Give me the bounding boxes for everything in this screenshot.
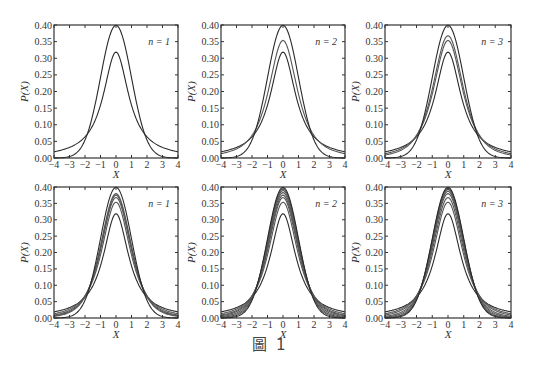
panel-label: n = 3 bbox=[481, 198, 503, 209]
y-tick-label: 0.10 bbox=[35, 119, 53, 130]
x-tick-label: 3 bbox=[493, 159, 498, 170]
x-tick-label: −2 bbox=[80, 159, 91, 170]
x-tick-label: −1 bbox=[427, 319, 438, 330]
y-tick-label: 0.00 bbox=[202, 313, 220, 324]
density-curve bbox=[385, 214, 511, 312]
chart-panel-bottom-middle: −4−3−2−101234X0.000.050.100.150.200.250.… bbox=[185, 182, 348, 341]
y-tick-label: 0.40 bbox=[202, 20, 220, 31]
x-tick-label: 4 bbox=[509, 159, 514, 170]
x-axis-label: X bbox=[444, 168, 453, 180]
y-tick-label: 0.00 bbox=[366, 153, 384, 164]
y-tick-label: 0.20 bbox=[202, 86, 220, 97]
y-tick-label: 0.10 bbox=[202, 280, 220, 291]
density-curve bbox=[221, 202, 345, 313]
density-curve bbox=[54, 202, 178, 313]
density-curve bbox=[54, 194, 178, 317]
y-axis-label: P(X) bbox=[349, 81, 362, 103]
y-tick-label: 0.35 bbox=[366, 198, 384, 209]
x-tick-label: 1 bbox=[296, 159, 301, 170]
x-tick-label: 4 bbox=[176, 319, 181, 330]
y-tick-label: 0.20 bbox=[366, 86, 384, 97]
density-curve bbox=[221, 52, 345, 152]
x-tick-label: 1 bbox=[129, 159, 134, 170]
x-tick-label: −1 bbox=[95, 319, 106, 330]
x-tick-label: 1 bbox=[461, 319, 466, 330]
y-tick-label: 0.05 bbox=[366, 296, 384, 307]
y-tick-label: 0.25 bbox=[35, 231, 53, 242]
y-tick-label: 0.05 bbox=[35, 136, 53, 147]
y-tick-label: 0.35 bbox=[35, 36, 53, 47]
y-tick-label: 0.20 bbox=[366, 247, 384, 258]
chart-panel-bottom-left: −4−3−2−101234X0.000.050.100.150.200.250.… bbox=[18, 182, 181, 341]
y-tick-label: 0.30 bbox=[366, 53, 384, 64]
density-curve bbox=[385, 52, 511, 152]
x-tick-label: 2 bbox=[145, 159, 150, 170]
y-tick-label: 0.25 bbox=[202, 231, 220, 242]
density-curve bbox=[385, 191, 511, 317]
chart-panel-top-middle: −4−3−2−101234X0.000.050.100.150.200.250.… bbox=[185, 20, 348, 181]
panel-label: n = 1 bbox=[148, 36, 170, 47]
x-tick-label: −3 bbox=[64, 319, 75, 330]
y-tick-label: 0.40 bbox=[202, 182, 220, 193]
x-tick-label: 1 bbox=[461, 159, 466, 170]
density-curve bbox=[54, 214, 178, 312]
figure: −4−3−2−101234X0.000.050.100.150.200.250.… bbox=[0, 0, 540, 369]
x-tick-label: 4 bbox=[343, 159, 348, 170]
x-tick-label: 1 bbox=[129, 319, 134, 330]
x-tick-label: −1 bbox=[427, 159, 438, 170]
x-tick-label: 2 bbox=[477, 319, 482, 330]
y-tick-label: 0.30 bbox=[35, 53, 53, 64]
x-tick-label: −1 bbox=[95, 159, 106, 170]
y-tick-label: 0.05 bbox=[202, 296, 220, 307]
x-tick-label: 3 bbox=[493, 319, 498, 330]
x-tick-label: 2 bbox=[145, 319, 150, 330]
y-tick-label: 0.00 bbox=[366, 313, 384, 324]
y-axis-label: P(X) bbox=[185, 242, 198, 264]
panel-label: n = 3 bbox=[481, 36, 503, 47]
y-tick-label: 0.20 bbox=[35, 86, 53, 97]
density-curve bbox=[221, 40, 345, 153]
x-tick-label: −2 bbox=[80, 319, 91, 330]
x-tick-label: −2 bbox=[411, 319, 422, 330]
density-curve bbox=[221, 198, 345, 315]
y-tick-label: 0.05 bbox=[202, 136, 220, 147]
panel-label: n = 1 bbox=[148, 198, 170, 209]
y-axis-label: P(X) bbox=[349, 242, 362, 264]
plot-area: −4−3−2−101234X0.000.050.100.150.200.250.… bbox=[0, 0, 540, 369]
chart-panel-top-right: −4−3−2−101234X0.000.050.100.150.200.250.… bbox=[349, 20, 514, 181]
x-tick-label: 4 bbox=[509, 319, 514, 330]
density-curve bbox=[385, 194, 511, 317]
density-curve bbox=[385, 198, 511, 315]
y-tick-label: 0.25 bbox=[366, 231, 384, 242]
y-tick-label: 0.15 bbox=[35, 263, 53, 274]
x-tick-label: 2 bbox=[477, 159, 482, 170]
y-tick-label: 0.25 bbox=[366, 69, 384, 80]
y-tick-label: 0.00 bbox=[35, 313, 53, 324]
chart-panel-top-left: −4−3−2−101234X0.000.050.100.150.200.250.… bbox=[18, 20, 181, 181]
y-tick-label: 0.00 bbox=[202, 153, 220, 164]
density-curve bbox=[385, 202, 511, 313]
y-tick-label: 0.35 bbox=[35, 198, 53, 209]
y-tick-label: 0.30 bbox=[202, 214, 220, 225]
x-tick-label: −2 bbox=[247, 319, 258, 330]
panel-label: n = 2 bbox=[315, 36, 337, 47]
density-curve bbox=[385, 40, 511, 153]
x-tick-label: −1 bbox=[262, 319, 273, 330]
y-tick-label: 0.00 bbox=[35, 153, 53, 164]
density-curve bbox=[54, 52, 178, 152]
panel-label: n = 2 bbox=[315, 198, 337, 209]
x-axis-label: X bbox=[112, 168, 121, 180]
x-tick-label: 3 bbox=[160, 159, 165, 170]
y-tick-label: 0.35 bbox=[202, 36, 220, 47]
density-curve bbox=[221, 191, 345, 318]
x-tick-label: −3 bbox=[395, 319, 406, 330]
chart-panel-bottom-right: −4−3−2−101234X0.000.050.100.150.200.250.… bbox=[349, 182, 514, 341]
x-axis-label: X bbox=[279, 168, 288, 180]
y-axis-label: P(X) bbox=[18, 242, 31, 264]
density-curve bbox=[221, 193, 345, 317]
y-tick-label: 0.15 bbox=[202, 263, 220, 274]
y-tick-label: 0.25 bbox=[202, 69, 220, 80]
x-tick-label: −3 bbox=[231, 159, 242, 170]
y-tick-label: 0.20 bbox=[35, 247, 53, 258]
x-tick-label: 3 bbox=[160, 319, 165, 330]
